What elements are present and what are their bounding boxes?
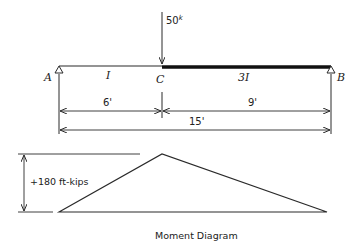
support-a-label: A [44, 72, 52, 83]
dimension-ab-label: 15' [189, 117, 204, 127]
moment-peak-label: +180 ft-kips [30, 177, 89, 187]
moment-diagram-caption: Moment Diagram [155, 231, 238, 241]
segment-cb-stiffness-label: 3I [238, 72, 249, 83]
dimension-ac-label: 6' [103, 98, 112, 108]
dimension-cb-label: 9' [248, 98, 257, 108]
segment-ac-stiffness-label: I [106, 70, 110, 81]
beam-diagram-canvas [0, 0, 359, 249]
support-b-label: B [337, 72, 345, 83]
load-label: 50k [166, 15, 183, 26]
support-a-icon [55, 66, 63, 73]
point-c-label: C [156, 74, 164, 85]
moment-diagram-shape [59, 154, 327, 212]
